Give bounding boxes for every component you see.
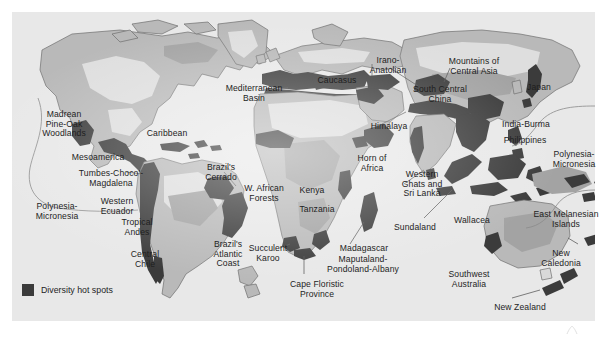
map-label-madagascar: Madagascar [340, 244, 388, 254]
world-map-canvas: .lt{fill:#d9d9d9;stroke:#6f6f6f;stroke-w… [12, 12, 595, 321]
map-label-tanzania: Tanzania [299, 205, 334, 215]
map-label-brazils-cerrado: Brazil's Cerrado [205, 163, 237, 182]
map-label-tumbes-choco-magdalena: Tumbes-Choco'- Magdalena [79, 169, 143, 188]
map-label-tropical-andes: Tropical Andes [121, 218, 152, 237]
map-label-caucasus: Caucasus [317, 76, 356, 86]
map-label-south-central-china: South Central China [413, 85, 467, 104]
map-label-polynesia-micronesia-east: Polynesia- Micronesia [553, 150, 596, 169]
page-corner-mark [565, 325, 579, 335]
map-label-mesoamerica: Mesoamerica [72, 153, 125, 163]
legend: Diversity hot spots [22, 284, 113, 296]
world-map-graphic: .lt{fill:#d9d9d9;stroke:#6f6f6f;stroke-w… [12, 12, 595, 321]
map-label-maputaland-pondoland-albany: Maputaland- Pondoland-Albany [327, 255, 399, 274]
map-label-himalaya: Himalaya [371, 122, 408, 132]
legend-label-hotspot: Diversity hot spots [41, 285, 113, 295]
map-label-cape-floristic-province: Cape Floristic Province [290, 280, 344, 299]
legend-swatch-hotspot [22, 284, 34, 296]
landmass-southern-islands [238, 266, 260, 298]
map-label-w-african-forests: W. African Forests [244, 184, 284, 203]
map-label-western-ecuador: Western Ecuador [101, 197, 134, 216]
map-label-central-chile: Central Chile [131, 250, 159, 269]
map-label-western-ghats-and-sri-lanka: Western Ghats and Sri Lanka [402, 170, 443, 199]
map-label-wallacea: Wallacea [454, 216, 490, 226]
map-label-madrean-pine-oak-woodlands: Madrean Pine-Oak Woodlands [42, 110, 86, 139]
map-label-horn-of-africa: Horn of Africa [358, 154, 387, 173]
biodiversity-hotspots-figure: .lt{fill:#d9d9d9;stroke:#6f6f6f;stroke-w… [0, 0, 609, 338]
map-label-japan: Japan [527, 83, 551, 93]
map-label-india-burma: India-Burma [502, 120, 550, 130]
map-label-new-zealand: New Zealand [494, 303, 546, 313]
map-label-polynesia-micronesia-west: Polynesia- Micronesia [36, 202, 79, 221]
map-label-kenya: Kenya [300, 186, 325, 196]
map-label-irano-anatolian: Irano- Anatolian [370, 56, 407, 75]
map-label-southwest-australia: Southwest Australia [448, 270, 489, 289]
map-label-east-melanesian-islands: East Melanesian Islands [533, 210, 598, 229]
map-label-mediterranean-basin: Mediterranean Basin [226, 84, 283, 103]
map-label-new-caledonia: New Caledonia [541, 249, 581, 268]
map-label-brazils-atlantic-coast: Brazil's Atlantic Coast [214, 240, 243, 269]
map-label-philippines: Philippines [504, 136, 547, 146]
map-label-caribbean: Caribbean [147, 129, 188, 139]
map-label-sundaland: Sundaland [394, 223, 436, 233]
map-label-mountains-of-central-asia: Mountains of Central Asia [449, 57, 499, 76]
map-label-succulent-karoo: Succulent Karoo [249, 244, 288, 263]
